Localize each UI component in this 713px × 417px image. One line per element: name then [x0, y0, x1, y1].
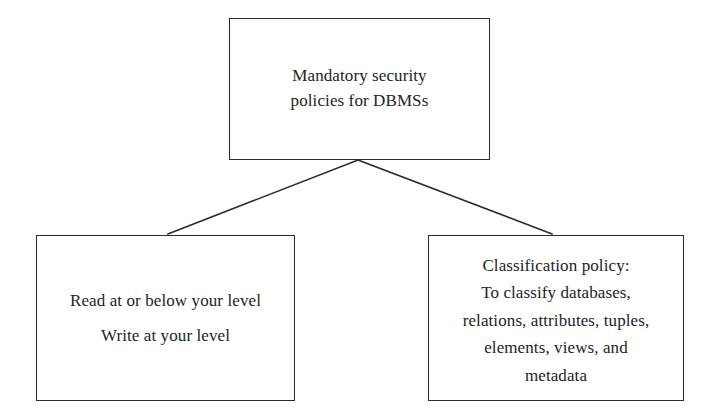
node-access-rules[interactable]: Read at or below your level Write at you…	[36, 235, 295, 401]
node-classification-policy[interactable]: Classification policy: To classify datab…	[428, 235, 684, 401]
diagram-canvas: Mandatory security policies for DBMSs Re…	[0, 0, 713, 417]
node-root-line-1: Mandatory security	[292, 64, 426, 89]
node-right-body: To classify databases, relations, attrib…	[463, 280, 650, 391]
node-left-body: Read at or below your level Write at you…	[70, 284, 261, 353]
node-root-line-2: policies for DBMSs	[291, 89, 429, 114]
node-right-line-3: elements, views, and	[484, 336, 628, 361]
node-right-line-2: relations, attributes, tuples,	[463, 309, 650, 334]
node-right-heading: Classification policy:	[482, 254, 629, 279]
node-right-line-1: To classify databases,	[481, 281, 631, 306]
node-left-line-1: Read at or below your level	[70, 289, 261, 314]
connector-root-to-right	[358, 160, 552, 234]
node-left-line-2: Write at your level	[101, 324, 230, 349]
node-mandatory-security-policies[interactable]: Mandatory security policies for DBMSs	[229, 18, 490, 160]
node-right-line-4: metadata	[525, 364, 587, 389]
connector-root-to-left	[168, 160, 358, 234]
